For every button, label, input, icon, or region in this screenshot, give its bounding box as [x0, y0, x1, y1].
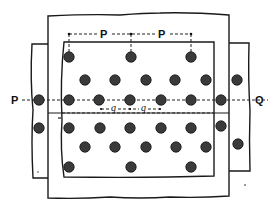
rivet	[94, 95, 104, 105]
rivet	[232, 75, 242, 85]
riveted-joint-diagram: P P P Q q q	[0, 0, 274, 221]
rivet-group	[34, 52, 243, 172]
rivet	[186, 123, 196, 133]
rivet	[126, 162, 136, 172]
pitch-label-left: P	[100, 28, 107, 40]
rivet	[64, 95, 74, 105]
pitch-label-right: P	[158, 28, 165, 40]
rivet	[186, 52, 196, 62]
rivet	[125, 95, 135, 105]
rivet	[141, 75, 151, 85]
rivet	[216, 95, 226, 105]
rivet	[64, 52, 74, 62]
stray-mark	[244, 184, 246, 186]
rivet	[110, 142, 120, 152]
rivet	[201, 75, 211, 85]
stray-mark	[37, 171, 38, 172]
left-strip-plate	[31, 44, 48, 178]
section-label-p: P	[11, 94, 18, 106]
diagonal-pitch-label-right: q	[141, 102, 146, 113]
rivet	[80, 142, 90, 152]
rivet	[34, 95, 44, 105]
diagonal-pitch-label-left: q	[111, 102, 116, 113]
rivet	[95, 123, 105, 133]
rivet	[110, 75, 120, 85]
main-back-plate	[48, 13, 229, 199]
rivet	[64, 162, 74, 172]
rivet	[141, 142, 151, 152]
rivet	[80, 75, 90, 85]
rivet	[156, 123, 166, 133]
rivet	[186, 95, 196, 105]
rivet	[233, 139, 243, 149]
section-label-q: Q	[255, 94, 264, 106]
rivet	[64, 123, 74, 133]
rivet	[171, 142, 181, 152]
right-strip-plate	[229, 43, 250, 171]
rivet	[186, 162, 196, 172]
rivet	[34, 123, 44, 133]
pitch-dimension: P P	[68, 28, 193, 52]
rivet	[216, 121, 226, 131]
rivet	[126, 52, 136, 62]
rivet	[170, 75, 180, 85]
rivet	[156, 95, 166, 105]
rivet	[201, 142, 211, 152]
rivet	[125, 123, 135, 133]
